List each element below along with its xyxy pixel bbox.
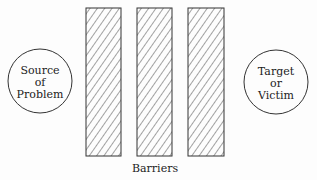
barrier-3 [188,8,224,156]
target-node: Target or Victim [244,50,308,114]
barrier-diagram: Source of Problem Barriers Target or Vic… [0,0,317,180]
target-label-line3: Victim [257,89,294,102]
barrier-2 [137,8,172,156]
barriers-label: Barriers [132,162,178,175]
barrier-1 [86,8,121,156]
source-node: Source of Problem [8,49,72,113]
source-label-line3: Problem [17,88,64,101]
diagram-canvas: Source of Problem Barriers Target or Vic… [0,0,317,180]
